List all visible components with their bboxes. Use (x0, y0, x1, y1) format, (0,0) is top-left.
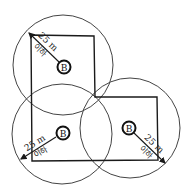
point-b-right: B (123, 122, 136, 135)
radius-label-right: 25 m 이하 (135, 132, 166, 163)
point-b-top: B (58, 61, 71, 74)
point-b-bottom-left: B (57, 127, 70, 140)
point-b-bottom-left-label: B (60, 129, 67, 139)
point-b-right-label: B (126, 124, 133, 134)
coverage-diagram: B B B 25 m 이하 25 m 이하 25 m 이하 (0, 0, 191, 196)
radius-label-bottom-left: 25 m 이하 (22, 132, 53, 162)
point-b-top-label: B (61, 63, 68, 73)
